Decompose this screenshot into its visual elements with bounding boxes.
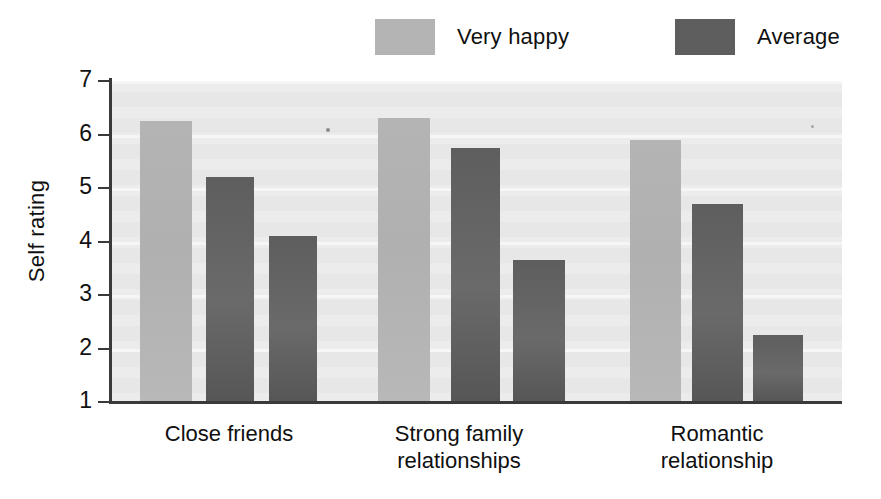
x-axis-label: Strong familyrelationships <box>329 420 589 474</box>
bar <box>378 118 430 402</box>
bar <box>753 335 803 402</box>
x-axis-label-line: relationship <box>587 447 847 474</box>
bar <box>513 260 565 402</box>
y-axis-line <box>109 78 112 404</box>
legend-swatch-very-happy <box>375 19 435 55</box>
y-tick-label: 4 <box>58 229 92 253</box>
y-tick-label: 6 <box>58 122 92 146</box>
y-tick-mark <box>98 348 109 350</box>
legend-swatch-average <box>675 19 735 55</box>
legend-item-very-happy: Very happy <box>375 19 569 55</box>
x-axis-line <box>109 401 842 404</box>
x-axis-label-line: Strong family <box>329 420 589 447</box>
y-tick-label-text: 1 <box>79 389 92 412</box>
legend-label-very-happy: Very happy <box>457 24 569 50</box>
y-tick-mark <box>98 187 109 189</box>
y-tick-label: 7 <box>58 68 92 92</box>
bar <box>269 236 317 402</box>
x-axis-label-line: Romantic <box>587 420 847 447</box>
bar <box>206 177 254 402</box>
x-axis-label-line: relationships <box>329 447 589 474</box>
y-tick-mark <box>98 80 109 82</box>
scan-band <box>111 133 842 144</box>
y-tick-label-text: 2 <box>79 336 92 359</box>
bar-chart: Self rating 7654321 <box>0 70 881 415</box>
x-axis-category-labels: Close friendsStrong familyrelationshipsR… <box>0 420 881 490</box>
bar <box>630 140 681 402</box>
bar <box>692 204 743 402</box>
legend-label-average: Average <box>757 24 840 50</box>
y-tick-label-text: 7 <box>79 68 92 91</box>
y-tick-mark <box>98 241 109 243</box>
y-tick-label-text: 3 <box>79 282 92 305</box>
y-tick-label-text: 5 <box>79 175 92 198</box>
chart-legend: Very happy Average <box>0 14 881 60</box>
x-axis-label: Romanticrelationship <box>587 420 847 474</box>
y-tick-label-text: 6 <box>79 122 92 145</box>
x-axis-label-line: Close friends <box>99 420 359 447</box>
y-axis-title: Self rating <box>24 146 50 316</box>
y-tick-mark <box>98 134 109 136</box>
scan-speck <box>811 125 814 128</box>
scan-band <box>111 107 842 118</box>
scan-speck <box>326 128 330 132</box>
bar <box>140 121 192 402</box>
bar <box>451 148 500 402</box>
legend-item-average: Average <box>675 19 840 55</box>
y-tick-label-text: 4 <box>79 229 92 252</box>
y-tick-mark <box>98 401 109 403</box>
plot-area <box>111 81 842 402</box>
y-tick-mark <box>98 294 109 296</box>
y-tick-label: 2 <box>58 336 92 360</box>
y-tick-label: 5 <box>58 175 92 199</box>
y-tick-label: 3 <box>58 282 92 306</box>
x-axis-label: Close friends <box>99 420 359 447</box>
scan-band <box>111 81 842 92</box>
y-tick-label: 1 <box>58 389 92 413</box>
